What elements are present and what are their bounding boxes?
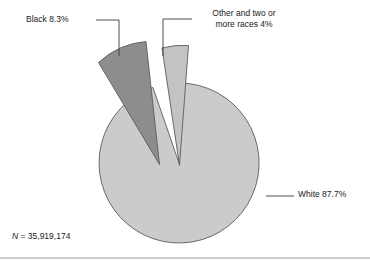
slice-label-white: White 87.7% (298, 189, 346, 200)
pie-chart-graphic (0, 0, 370, 270)
pie-chart-figure: Black 8.3% Other and two or more races 4… (0, 0, 370, 270)
slice-label-other: Other and two or more races 4% (196, 8, 292, 30)
slice-label-black: Black 8.3% (26, 14, 69, 25)
slice-label-other-line1: Other and two or (212, 8, 275, 18)
slice-label-other-line2: more races 4% (215, 19, 272, 29)
sample-size-value: = 35,919,174 (18, 231, 70, 241)
sample-size-note: N = 35,919,174 (12, 231, 70, 241)
